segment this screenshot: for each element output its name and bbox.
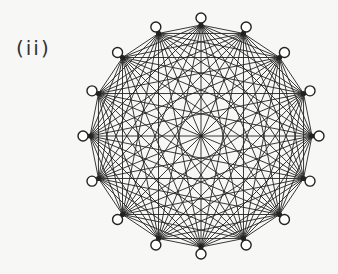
vertex-node [78,131,88,141]
vertex-node [241,22,251,32]
vertex-node [87,176,97,186]
vertex-node [113,214,123,224]
vertex-node [196,13,206,23]
vertex-node [113,48,123,58]
vertex-node [196,249,206,259]
vertex-node [151,22,161,32]
vertex-node [305,86,315,96]
vertex-node [151,240,161,250]
complete-graph-figure [0,0,338,274]
vertex-node [305,176,315,186]
vertex-node [241,240,251,250]
vertex-node [314,131,324,141]
vertex-node [279,214,289,224]
vertex-node [279,48,289,58]
vertex-node [87,86,97,96]
